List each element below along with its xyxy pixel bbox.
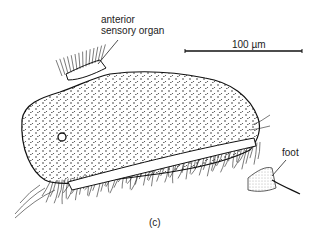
foot-leader-line bbox=[272, 160, 286, 176]
sensory-cilium bbox=[71, 55, 74, 71]
sensory-cilium bbox=[64, 58, 68, 74]
cilium bbox=[258, 142, 260, 159]
eye-spot bbox=[58, 133, 66, 141]
scale-bar-label: 100 µm bbox=[232, 39, 266, 50]
anterior-sensory-organ-label: anterior sensory organ bbox=[101, 14, 164, 36]
anterior-label-line-1: anterior bbox=[101, 14, 164, 25]
cilium bbox=[15, 190, 55, 218]
panel-label: (c) bbox=[149, 217, 161, 228]
foot bbox=[248, 167, 276, 191]
anterior-label-line-2: sensory organ bbox=[101, 25, 164, 36]
cilium bbox=[54, 180, 59, 203]
sensory-cilium bbox=[75, 54, 77, 70]
foot-label: foot bbox=[282, 147, 299, 158]
sensory-cilium bbox=[79, 53, 80, 69]
cilium bbox=[15, 188, 45, 214]
anterior-leader-line bbox=[98, 40, 118, 64]
sensory-cilium bbox=[67, 56, 71, 72]
cilium bbox=[46, 181, 53, 202]
